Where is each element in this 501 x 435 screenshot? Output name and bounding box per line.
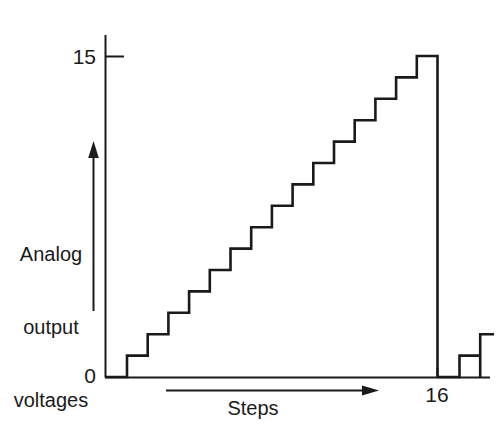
- y-axis-title: Analog output voltages: [8, 193, 94, 435]
- staircase-waveform: [105, 56, 438, 377]
- staircase-waveform-restart: [438, 334, 495, 377]
- x-axis-title: Steps: [198, 398, 308, 418]
- y-axis-title-line-1: Analog: [8, 242, 94, 266]
- x-axis-end-label: 16: [415, 384, 459, 405]
- y-axis-title-line-3: voltages: [8, 388, 94, 412]
- y-axis-max-label: 15: [62, 46, 96, 67]
- y-axis-title-line-2: output: [8, 315, 94, 339]
- x-axis-direction-arrow: [166, 385, 379, 395]
- staircase-chart-figure: 15 0 16 Analog output voltages Steps: [0, 0, 501, 435]
